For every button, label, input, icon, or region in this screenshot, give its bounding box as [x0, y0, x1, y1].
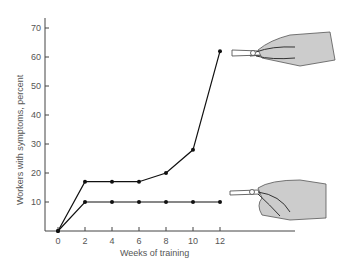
x-tick-label: 4 — [109, 236, 114, 246]
x-tick-label: 0 — [55, 236, 60, 246]
data-point — [218, 200, 222, 204]
x-axis-label: Weeks of training — [120, 248, 189, 258]
y-ticks: 10203040506070 — [31, 23, 49, 207]
data-point — [191, 200, 195, 204]
hand-straight-pliers-icon — [232, 32, 335, 66]
data-point — [137, 180, 141, 184]
data-point — [164, 200, 168, 204]
data-point — [56, 229, 60, 233]
data-point — [110, 180, 114, 184]
y-axis-label: Workers with symptoms, percent — [15, 74, 25, 205]
y-tick-label: 10 — [31, 197, 41, 207]
data-point — [218, 49, 222, 53]
data-point — [191, 148, 195, 152]
data-point — [83, 180, 87, 184]
line-chart: 10203040506070 024681012 Weeks of traini… — [0, 0, 352, 265]
data-point — [164, 171, 168, 175]
y-tick-label: 50 — [31, 81, 41, 91]
chart-figure: 10203040506070 024681012 Weeks of traini… — [0, 0, 352, 265]
data-point — [110, 200, 114, 204]
hand-bent-pliers-icon — [230, 180, 326, 220]
y-tick-label: 70 — [31, 23, 41, 33]
x-tick-label: 8 — [163, 236, 168, 246]
series-lines — [56, 49, 222, 233]
data-point — [83, 200, 87, 204]
x-ticks: 024681012 — [55, 227, 225, 246]
x-tick-label: 12 — [215, 236, 225, 246]
y-tick-label: 40 — [31, 110, 41, 120]
y-tick-label: 60 — [31, 52, 41, 62]
data-point — [137, 200, 141, 204]
y-tick-label: 30 — [31, 139, 41, 149]
x-tick-label: 6 — [136, 236, 141, 246]
x-tick-label: 10 — [188, 236, 198, 246]
series-line-1 — [58, 202, 220, 231]
y-tick-label: 20 — [31, 168, 41, 178]
x-tick-label: 2 — [82, 236, 87, 246]
